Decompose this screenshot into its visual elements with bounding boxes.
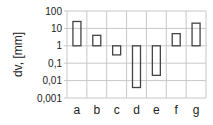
y-tick-label: 0,001 [37, 93, 62, 104]
y-tick-label: 1 [56, 40, 62, 51]
range-box-g [192, 23, 200, 46]
range-chart: 1001010,10,010,001abcdefgdv, [mm] [0, 0, 213, 125]
x-tick-label: d [133, 103, 140, 117]
y-tick-label: 10 [51, 23, 63, 34]
x-tick-label: a [74, 103, 81, 117]
x-tick-label: c [114, 103, 120, 117]
y-tick-label: 0,01 [43, 75, 63, 86]
range-box-e [152, 46, 160, 76]
x-tick-label: f [175, 103, 179, 117]
y-axis-label: dv, [mm] [11, 32, 25, 77]
range-box-b [93, 35, 101, 45]
y-tick-label: 100 [45, 6, 62, 17]
y-tick-label: 0,1 [48, 58, 62, 69]
x-tick-label: e [153, 103, 160, 117]
range-box-f [172, 34, 180, 46]
range-box-a [73, 21, 81, 45]
x-tick-label: g [193, 103, 200, 117]
range-box-d [133, 46, 141, 88]
chart-root: 1001010,10,010,001abcdefgdv, [mm] [0, 0, 213, 125]
range-box-c [113, 46, 121, 55]
x-tick-label: b [93, 103, 100, 117]
